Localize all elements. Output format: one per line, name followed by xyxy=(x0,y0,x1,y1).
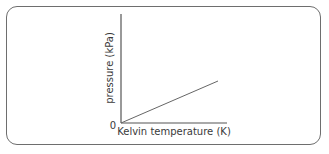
y-axis-label: pressure (kPa) xyxy=(104,32,115,104)
origin-label: 0 xyxy=(110,120,116,131)
data-line xyxy=(121,81,218,123)
x-axis-label: Kelvin temperature (K) xyxy=(117,126,231,137)
pressure-temperature-graph: 0 Kelvin temperature (K) pressure (kPa) xyxy=(0,0,329,154)
